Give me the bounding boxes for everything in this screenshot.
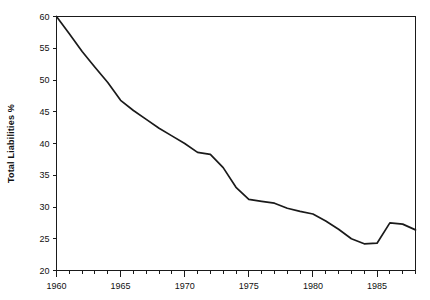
y-tick-label: 60 [39,12,49,22]
series-polyline [57,17,416,244]
y-axis-ticks: 202530354045505560 [39,12,56,276]
x-axis-ticks: 196019651970197519801985 [46,271,415,291]
x-tick-label: 1980 [303,281,323,291]
y-axis-title: Total Liabilities % [6,104,16,183]
x-tick-label: 1965 [111,281,131,291]
y-tick-label: 20 [39,266,49,276]
y-tick-label: 25 [39,234,49,244]
y-tick-label: 40 [39,139,49,149]
y-tick-label: 55 [39,43,49,53]
x-tick-label: 1975 [239,281,259,291]
chart-page: 202530354045505560 196019651970197519801… [0,0,430,300]
data-series-line [57,17,416,244]
y-tick-label: 35 [39,170,49,180]
plot-frame [57,17,416,271]
line-chart: 202530354045505560 196019651970197519801… [0,0,430,300]
x-tick-label: 1970 [175,281,195,291]
y-axis-title-text: Total Liabilities % [6,104,16,183]
y-tick-label: 30 [39,202,49,212]
x-tick-label: 1960 [46,281,66,291]
x-tick-label: 1985 [367,281,387,291]
y-tick-label: 45 [39,107,49,117]
y-tick-label: 50 [39,75,49,85]
